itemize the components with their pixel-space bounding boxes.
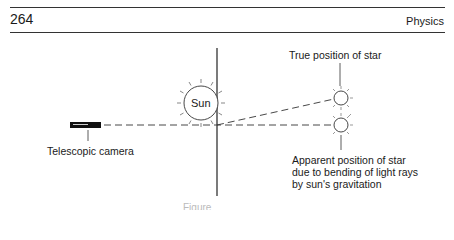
camera-label: Telescopic camera (47, 145, 134, 157)
apparent-star-label-line: by sun's gravitation (292, 178, 418, 190)
apparent-star-icon (333, 113, 353, 150)
true-star-icon (333, 63, 353, 110)
sun-label: Sun (191, 97, 211, 109)
figure-caption: Figure (183, 202, 211, 210)
telescope-camera-icon (70, 122, 101, 141)
apparent-star-label-line: Apparent position of star (292, 154, 418, 166)
true-light-path (217, 99, 334, 125)
apparent-star-label: Apparent position of star due to bending… (292, 154, 418, 190)
true-star-label: True position of star (289, 49, 381, 61)
apparent-star-label-line: due to bending of light rays (292, 166, 418, 178)
